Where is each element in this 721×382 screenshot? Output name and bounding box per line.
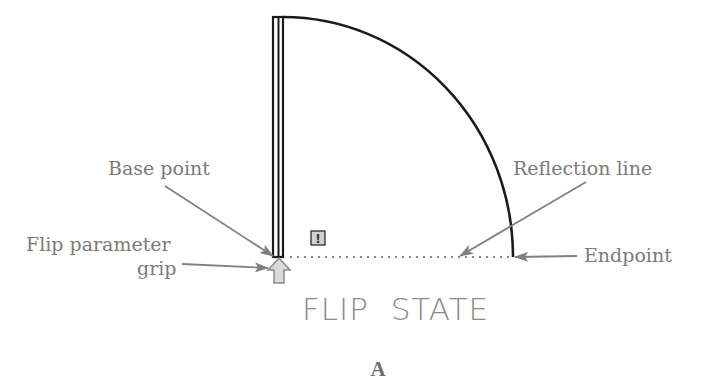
figure-caption: A	[370, 357, 386, 381]
flip-state-diagram: ! Base point Flip parameter grip Reflect…	[0, 0, 721, 382]
label-flip-grip-line1: Flip parameter	[26, 233, 172, 255]
leader-base-point	[165, 186, 273, 256]
flip-state-label: FLIP STATE	[302, 291, 489, 327]
warning-icon-glyph: !	[315, 232, 320, 246]
label-base-point: Base point	[108, 157, 210, 179]
door-panel	[273, 17, 283, 257]
door-swing-arc	[283, 17, 513, 257]
leader-endpoint	[515, 256, 577, 257]
label-reflection-line: Reflection line	[513, 157, 652, 179]
label-endpoint: Endpoint	[584, 244, 672, 266]
flip-grip-arrow-icon[interactable]	[268, 258, 290, 283]
leader-flip-grip	[182, 264, 268, 268]
label-flip-grip-line2: grip	[137, 257, 176, 279]
warning-icon[interactable]: !	[311, 231, 325, 246]
leader-reflection-line	[460, 182, 586, 256]
